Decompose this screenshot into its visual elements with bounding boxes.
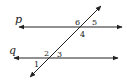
transversal-line: [30, 6, 101, 77]
angle-1-label: 1: [34, 60, 39, 69]
line-q-label: q: [9, 44, 16, 57]
angle-6-label: 6: [75, 18, 80, 27]
parallel-lines-diagram: p q 1 2 3 4 5 6: [0, 0, 127, 82]
diagram-canvas: p q 1 2 3 4 5 6: [0, 0, 127, 82]
angle-3-label: 3: [57, 50, 62, 59]
angle-5-label: 5: [92, 18, 97, 27]
angle-4-label: 4: [80, 30, 85, 39]
line-p-label: p: [15, 13, 22, 26]
angle-2-label: 2: [44, 49, 49, 58]
